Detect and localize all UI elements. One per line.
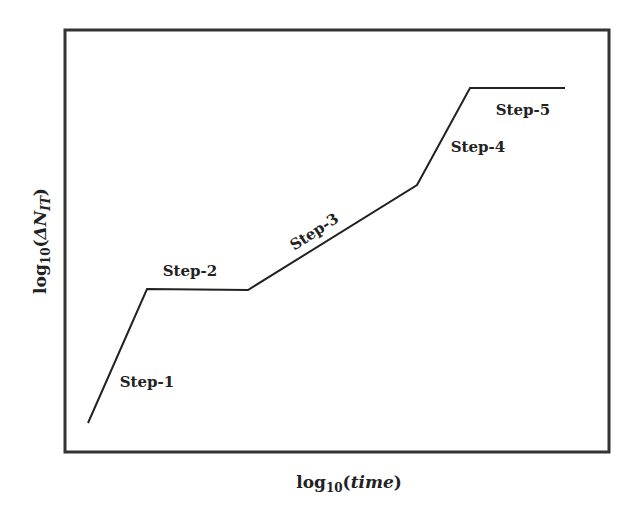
step-label-3: Step-3 [287, 209, 342, 254]
x-axis-label: log10(time) [296, 472, 402, 495]
step-label-5: Step-5 [496, 101, 550, 119]
step-label-4: Step-4 [451, 138, 505, 156]
step-label-1: Step-1 [120, 373, 174, 391]
step-label-2: Step-2 [163, 262, 217, 280]
chart: Step-1Step-2Step-3Step-4Step-5 log10(tim… [0, 0, 643, 513]
y-axis-label: log10(ΔNIT) [30, 188, 53, 294]
step-annotations: Step-1Step-2Step-3Step-4Step-5 [120, 101, 550, 391]
